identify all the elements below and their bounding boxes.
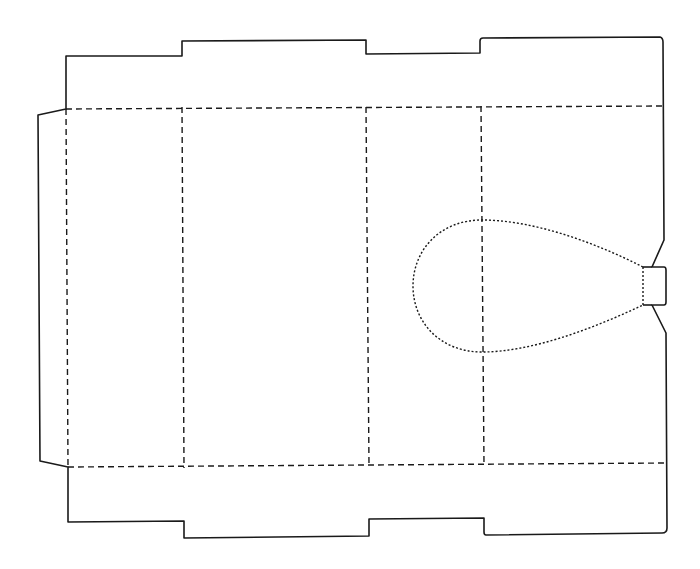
outer-cut-line bbox=[38, 37, 667, 538]
panel-1-fold-line bbox=[182, 107, 184, 468]
panel-3-fold-line bbox=[481, 106, 484, 465]
bottom-fold-line bbox=[68, 463, 666, 467]
dieline-diagram bbox=[0, 0, 700, 569]
panel-2-fold-line bbox=[366, 107, 369, 466]
top-fold-line bbox=[66, 106, 664, 109]
dieline-canvas bbox=[0, 0, 700, 569]
teardrop-perforation bbox=[413, 220, 643, 352]
glue-flap-fold-line bbox=[66, 109, 68, 467]
